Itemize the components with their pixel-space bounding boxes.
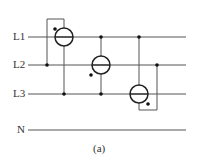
circuit-drawing: [0, 0, 199, 160]
junction-dot: [137, 35, 141, 39]
meter-2: [92, 56, 110, 74]
meter-1: [55, 28, 73, 46]
junction-dot: [99, 35, 103, 39]
meter-3: [130, 85, 148, 103]
polarity-dot: [53, 27, 57, 31]
junction-dot: [155, 63, 159, 67]
polarity-dot: [146, 102, 150, 106]
polarity-dot: [89, 73, 93, 77]
junction-dot: [99, 92, 103, 96]
junction-dot: [45, 63, 49, 67]
junction-dot: [62, 92, 66, 96]
